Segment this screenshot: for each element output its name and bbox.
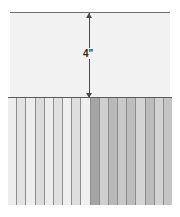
plank-stripe	[146, 98, 155, 205]
plank-stripe	[63, 98, 72, 205]
plank-stripe	[136, 98, 145, 205]
plank-stripe	[118, 98, 127, 205]
plank-stripe	[109, 98, 118, 205]
plank-stripe	[91, 98, 100, 205]
plank-stripe	[155, 98, 164, 205]
lower-striped-panel	[8, 98, 172, 205]
plank-stripe	[81, 98, 90, 205]
plank-stripe	[100, 98, 109, 205]
diagram-canvas: 4"	[0, 0, 180, 217]
plank-stripe	[26, 98, 35, 205]
plank-stripe	[45, 98, 54, 205]
plank-stripe	[54, 98, 63, 205]
plank-stripe	[72, 98, 81, 205]
plank-stripe	[8, 98, 17, 205]
plank-stripe	[36, 98, 45, 205]
plank-stripe	[164, 98, 172, 205]
plank-stripe	[17, 98, 26, 205]
dimension-label: 4"	[82, 48, 94, 59]
arrow-head-top-icon	[86, 13, 92, 18]
plank-stripe	[127, 98, 136, 205]
